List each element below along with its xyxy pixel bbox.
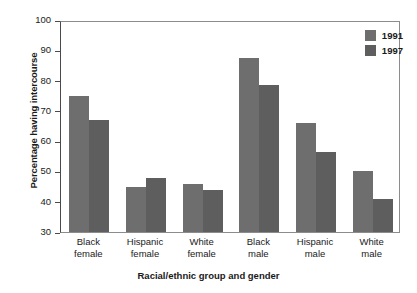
bar-chart-figure: Percentage having intercourse 3040506070…: [0, 0, 417, 293]
bar-1991-group-2: [183, 184, 203, 232]
y-tick-label: 80: [40, 75, 51, 86]
y-tick-label: 50: [40, 165, 51, 176]
legend-swatch-1991: [365, 30, 376, 41]
bar-1991-group-5: [353, 171, 373, 232]
plot-area: [61, 22, 399, 232]
legend-item-1997: 1997: [365, 43, 403, 58]
y-tick-label: 40: [40, 196, 51, 207]
y-axis-title: Percentage having intercourse: [28, 41, 39, 201]
y-tick-label: 60: [40, 135, 51, 146]
bar-1991-group-4: [296, 123, 316, 232]
y-tick-label: 70: [40, 105, 51, 116]
legend: 19911997: [365, 28, 403, 58]
bar-1997-group-4: [316, 152, 336, 232]
bar-1991-group-0: [69, 96, 89, 232]
x-axis-title: Racial/ethnic group and gender: [0, 270, 417, 281]
bar-1997-group-0: [89, 120, 109, 232]
y-tick-label: 100: [35, 14, 51, 25]
legend-label-1997: 1997: [382, 45, 403, 56]
legend-label-1991: 1991: [382, 30, 403, 41]
bar-1997-group-5: [373, 199, 393, 232]
bar-1997-group-2: [203, 190, 223, 232]
y-tick-label: 90: [40, 44, 51, 55]
legend-item-1991: 1991: [365, 28, 403, 43]
bar-1991-group-3: [239, 58, 259, 232]
bar-1997-group-3: [259, 85, 279, 232]
plot-frame: [60, 21, 400, 233]
bar-1997-group-1: [146, 178, 166, 232]
x-axis-label-5: White male: [332, 236, 412, 259]
legend-swatch-1997: [365, 45, 376, 56]
bar-1991-group-1: [126, 187, 146, 232]
